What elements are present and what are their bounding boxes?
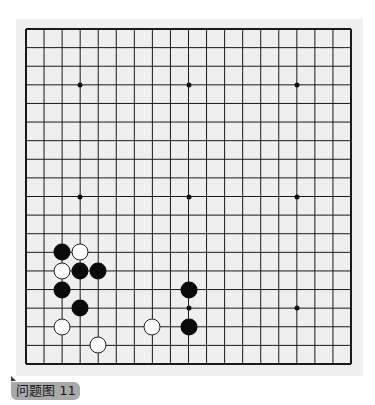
problem-caption: 问题图 11 (11, 382, 80, 400)
star-point (294, 306, 299, 311)
black-stone[interactable] (90, 262, 107, 279)
black-stone[interactable] (54, 281, 71, 298)
star-point (294, 82, 299, 87)
star-point (186, 194, 191, 199)
star-point (186, 306, 191, 311)
white-stone[interactable] (90, 337, 107, 354)
black-stone[interactable] (72, 262, 89, 279)
star-point (294, 194, 299, 199)
star-point (186, 82, 191, 87)
star-point (78, 194, 83, 199)
black-stone[interactable] (72, 300, 89, 317)
black-stone[interactable] (180, 281, 197, 298)
white-stone[interactable] (144, 318, 161, 335)
white-stone[interactable] (54, 262, 71, 279)
black-stone[interactable] (54, 244, 71, 261)
white-stone[interactable] (72, 244, 89, 261)
caption-corner-marker (11, 376, 16, 381)
caption-label: 问题图 11 (16, 383, 76, 399)
star-point (78, 82, 83, 87)
white-stone[interactable] (54, 318, 71, 335)
go-board[interactable] (26, 29, 351, 364)
black-stone[interactable] (180, 318, 197, 335)
